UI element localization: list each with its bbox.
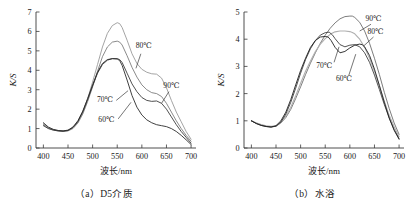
x-tick-label: 500: [86, 152, 98, 161]
y-tick-label: 1: [27, 125, 31, 134]
series-label-60c: 60℃: [98, 115, 115, 124]
x-axis-title: 波长/nm: [100, 165, 132, 176]
y-tick-label: 1: [235, 117, 239, 126]
curve-series-70c: [251, 32, 399, 138]
x-tick-label: 500: [294, 152, 306, 161]
series-label-80c: 80℃: [136, 41, 153, 50]
y-tick-label: 5: [235, 8, 239, 17]
x-tick-label: 700: [185, 152, 197, 161]
y-tick-label: 2: [235, 90, 239, 99]
chart-panel-a: 01234567400450500550600650700波长/nmK/S80℃…: [0, 0, 208, 213]
y-tick-label: 0: [27, 144, 31, 153]
y-tick-label: 6: [27, 27, 31, 36]
y-tick-label: 2: [27, 105, 31, 114]
chart-b-svg: 012345400450500550600650700波长/nmK/S90℃80…: [208, 0, 416, 186]
x-tick-label: 550: [319, 152, 331, 161]
chart-a-caption: （a）D5介质: [0, 186, 208, 200]
y-tick-label: 5: [27, 47, 31, 56]
annotation-leader-60c: [118, 102, 131, 119]
annotation-leader-70c: [116, 91, 128, 101]
curve-series-90c: [43, 41, 191, 141]
x-axis-title: 波长/nm: [308, 165, 340, 176]
x-tick-label: 550: [111, 152, 123, 161]
series-label-80c: 80℃: [367, 27, 384, 36]
chart-b-caption: （b）水浴: [208, 186, 416, 200]
curve-series-80c: [251, 31, 399, 137]
y-tick-label: 7: [27, 8, 31, 17]
annotation-leader-80c: [364, 37, 374, 46]
y-tick-label: 3: [235, 62, 239, 71]
figure-container: 01234567400450500550600650700波长/nmK/S80℃…: [0, 0, 416, 213]
x-tick-label: 450: [270, 152, 282, 161]
y-tick-label: 3: [27, 86, 31, 95]
y-tick-label: 4: [235, 35, 239, 44]
series-label-90c: 90℃: [163, 81, 180, 90]
y-axis-title: K/S: [216, 73, 226, 88]
series-label-70c: 70℃: [316, 61, 333, 70]
x-tick-label: 600: [344, 152, 356, 161]
x-tick-label: 700: [393, 152, 405, 161]
chart-panel-b: 012345400450500550600650700波长/nmK/S90℃80…: [208, 0, 416, 213]
y-tick-label: 4: [27, 66, 31, 75]
series-label-60c: 60℃: [336, 74, 353, 83]
y-axis-title: K/S: [8, 73, 18, 88]
x-tick-label: 400: [245, 152, 257, 161]
curve-series-60c: [43, 59, 191, 145]
curve-series-60c: [251, 36, 399, 139]
x-tick-label: 400: [37, 152, 49, 161]
annotation-leader-60c: [349, 54, 356, 75]
series-label-90c: 90℃: [365, 14, 382, 23]
annotation-leader-80c: [136, 54, 141, 69]
chart-a-svg: 01234567400450500550600650700波长/nmK/S80℃…: [0, 0, 208, 186]
y-tick-label: 0: [235, 144, 239, 153]
x-tick-label: 450: [62, 152, 74, 161]
x-tick-label: 650: [368, 152, 380, 161]
x-tick-label: 600: [136, 152, 148, 161]
x-tick-label: 650: [160, 152, 172, 161]
series-label-70c: 70℃: [97, 95, 114, 104]
